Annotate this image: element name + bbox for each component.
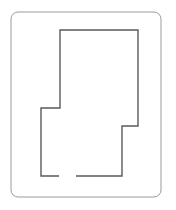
canvas-background	[0, 0, 176, 210]
floor-plan-figure	[0, 0, 176, 210]
diagram-canvas	[0, 0, 176, 210]
